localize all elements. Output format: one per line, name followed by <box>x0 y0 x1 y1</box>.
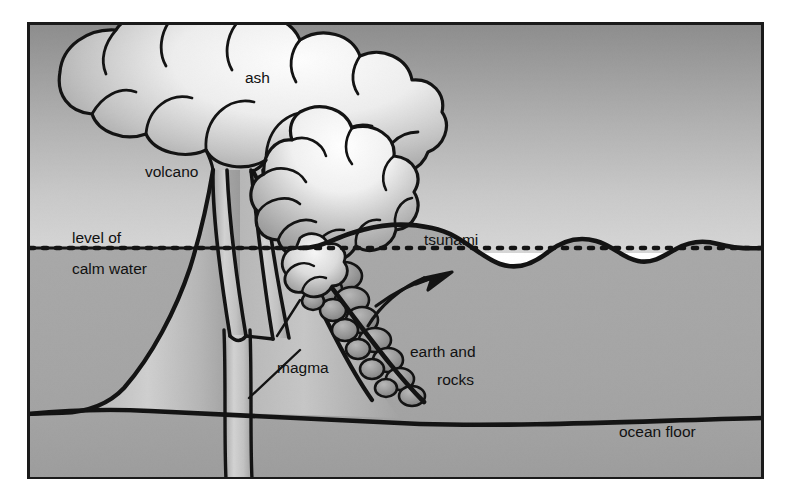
label-volcano: volcano <box>145 163 198 180</box>
label-rocks: rocks <box>437 371 474 388</box>
label-ocean-floor: ocean floor <box>619 423 696 440</box>
illustration-body: ash volcano level of tsunami calm water … <box>28 9 764 479</box>
label-calm-water: calm water <box>72 260 147 277</box>
volcano-tsunami-illustration: ash volcano level of tsunami calm water … <box>0 0 789 479</box>
diagram-scene: ash volcano level of tsunami calm water … <box>0 0 789 479</box>
label-tsunami: tsunami <box>424 231 478 248</box>
paper-grain-overlay <box>28 23 764 479</box>
label-ash: ash <box>245 69 270 86</box>
label-level-of: level of <box>72 229 122 246</box>
label-magma: magma <box>277 359 329 376</box>
label-earth-and: earth and <box>410 343 476 360</box>
